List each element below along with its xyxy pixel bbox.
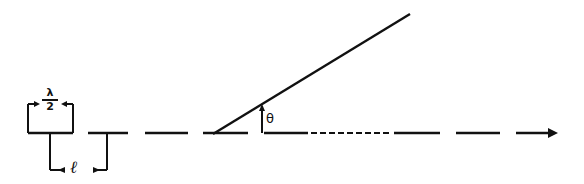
spacing-arrow-right-icon bbox=[93, 167, 100, 173]
spacing-arrow-left-icon bbox=[58, 167, 65, 173]
lambda-symbol: λ bbox=[40, 88, 60, 98]
half-wavelength-label: λ 2 bbox=[40, 88, 60, 112]
denominator: 2 bbox=[40, 102, 60, 112]
angle-label: θ bbox=[266, 111, 274, 126]
observation-direction-line bbox=[213, 14, 410, 134]
dimension-arrow-right-icon bbox=[61, 101, 67, 107]
spacing-label: ℓ bbox=[70, 157, 77, 178]
spacing-dimension bbox=[50, 133, 107, 170]
array-diagram bbox=[0, 0, 584, 184]
axis-arrow-icon bbox=[548, 128, 558, 138]
